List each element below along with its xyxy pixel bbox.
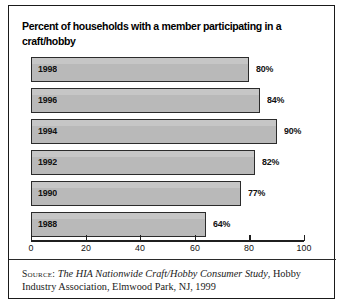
- bar-1992: [31, 150, 255, 175]
- bar-row: 199490%: [9, 119, 336, 144]
- x-axis-tick-label: 0: [12, 243, 50, 253]
- figure-frame: Percent of households with a member part…: [8, 5, 335, 299]
- bar-value-label: 84%: [267, 88, 284, 113]
- x-axis-line: [31, 240, 304, 242]
- bar-year-label: 1994: [38, 119, 57, 144]
- bar-year-label: 1992: [38, 150, 57, 175]
- x-axis-tick-label: 80: [230, 243, 268, 253]
- bar-year-label: 1996: [38, 88, 57, 113]
- bar-row: 199684%: [9, 88, 336, 113]
- bar-highlight: [32, 120, 276, 126]
- x-axis-tick-label: 100: [285, 243, 323, 253]
- x-axis-tick: [140, 235, 141, 241]
- source-divider: [9, 259, 336, 260]
- bar-value-label: 80%: [256, 57, 273, 82]
- bar-1998: [31, 57, 249, 82]
- source-note: Source: The HIA Nationwide Craft/Hobby C…: [22, 267, 322, 294]
- bar-year-label: 1988: [38, 212, 57, 237]
- x-axis-tick: [304, 235, 305, 241]
- bar-highlight: [32, 213, 205, 219]
- plot-area: 199880%199684%199490%199282%199077%19886…: [9, 53, 336, 248]
- bar-highlight: [32, 58, 248, 64]
- bar-value-label: 90%: [284, 119, 301, 144]
- x-axis-tick: [86, 235, 87, 241]
- x-axis-tick-label: 60: [176, 243, 214, 253]
- x-axis-tick-label: 40: [121, 243, 159, 253]
- bar-row: 199077%: [9, 181, 336, 206]
- x-axis-tick: [249, 235, 250, 241]
- bar-year-label: 1998: [38, 57, 57, 82]
- bar-highlight: [32, 89, 259, 95]
- bar-1988: [31, 212, 206, 237]
- bar-value-label: 77%: [248, 181, 265, 206]
- bar-1994: [31, 119, 277, 144]
- chart-title: Percent of households with a member part…: [22, 19, 287, 48]
- bar-row: 199880%: [9, 57, 336, 82]
- bar-1996: [31, 88, 260, 113]
- bar-highlight: [32, 182, 240, 188]
- x-axis-tick-label: 20: [67, 243, 105, 253]
- source-study-title: The HIA Nationwide Craft/Hobby Consumer …: [58, 268, 268, 279]
- x-axis-tick: [31, 235, 32, 241]
- source-label: Source:: [22, 268, 55, 279]
- bar-value-label: 82%: [262, 150, 279, 175]
- bar-row: 198864%: [9, 212, 336, 237]
- bar-highlight: [32, 151, 254, 157]
- bar-year-label: 1990: [38, 181, 57, 206]
- x-axis-tick: [195, 235, 196, 241]
- bar-row: 199282%: [9, 150, 336, 175]
- bar-1990: [31, 181, 241, 206]
- bar-value-label: 64%: [213, 212, 230, 237]
